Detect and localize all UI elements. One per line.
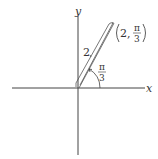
polar-diagram: x y π 3 2 2 , π 3	[0, 0, 158, 159]
vector-ray	[76, 23, 114, 88]
point-label: 2 , π 3	[117, 23, 146, 44]
angle-label-denominator: 3	[99, 73, 105, 83]
svg-text:2: 2	[120, 27, 127, 40]
radius-label: 2	[83, 46, 90, 59]
svg-text:,: ,	[127, 27, 131, 40]
radius-tick	[90, 55, 91, 57]
y-axis-label: y	[74, 5, 82, 18]
x-axis-label: x	[146, 82, 153, 95]
svg-text:3: 3	[134, 34, 140, 44]
angle-label-numerator: π	[99, 62, 105, 72]
svg-text:π: π	[134, 23, 140, 33]
